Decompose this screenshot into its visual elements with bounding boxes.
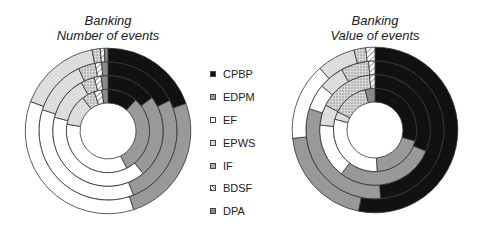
legend-swatch-icon [210,140,216,146]
legend-swatch-icon [210,117,216,123]
legend-label: DPA [223,205,245,217]
legend: CPBPEDPMEFEPWSIFBDSFDPA [210,63,255,223]
legend-item-bdsf: BDSF [210,177,255,200]
legend-swatch-icon [210,185,216,191]
legend-label: IF [223,160,233,172]
legend-label: BDSF [223,182,252,194]
legend-item-edpm: EDPM [210,86,255,109]
legend-label: EPWS [223,137,255,149]
legend-item-cpbp: CPBP [210,63,255,86]
legend-item-ef: EF [210,109,255,132]
legend-item-if: IF [210,154,255,177]
legend-label: CPBP [223,68,253,80]
segment-bdsf [369,75,375,89]
segment-dpa [101,62,108,76]
legend-label: EF [223,114,237,126]
legend-item-epws: EPWS [210,131,255,154]
donut-number-of-events [25,48,191,214]
legend-swatch-icon [210,71,216,77]
legend-swatch-icon [210,94,216,100]
legend-item-dpa: DPA [210,200,255,223]
segment-dpa [104,48,108,62]
segment-bdsf [368,61,375,75]
legend-label: EDPM [223,91,255,103]
legend-swatch-icon [210,163,216,169]
donut-value-of-events [292,47,458,213]
legend-swatch-icon [210,208,216,214]
segment-bdsf [366,47,375,61]
